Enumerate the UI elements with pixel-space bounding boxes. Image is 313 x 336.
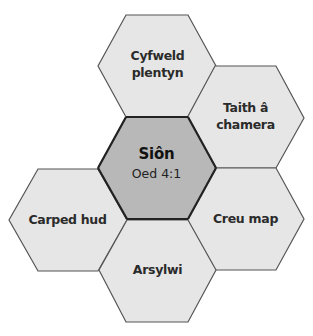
node-label-bottom: Arsylwi (99, 261, 216, 278)
node-label-bottom-line1: Arsylwi (99, 261, 216, 278)
node-label-right-line1: Creu map (187, 210, 304, 227)
node-label-top-right-line1: Taith â (187, 99, 304, 116)
node-label-top-right: Taith â chamera (187, 99, 304, 133)
node-label-left: Carped hud (9, 211, 126, 228)
node-label-top-line1: Cyfweld (99, 47, 216, 64)
center-name: Siôn (98, 145, 215, 163)
node-label-right: Creu map (187, 210, 304, 227)
center-age: Oed 4:1 (98, 166, 215, 181)
node-label-top: Cyfweld plentyn (99, 47, 216, 81)
node-label-top-right-line2: chamera (187, 116, 304, 133)
node-label-top-line2: plentyn (99, 64, 216, 81)
node-label-left-line1: Carped hud (9, 211, 126, 228)
